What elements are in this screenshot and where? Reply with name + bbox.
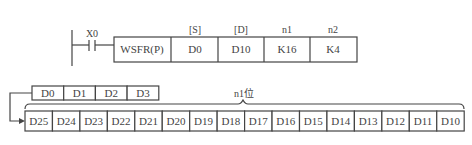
destination-register-cell-label: D22 — [112, 115, 131, 127]
operand-header-n2: n2 — [328, 24, 338, 35]
destination-register-cell-label: D10 — [441, 115, 460, 127]
destination-register-cell-label: D17 — [249, 115, 268, 127]
destination-register-cell-label: D19 — [194, 115, 213, 127]
destination-register-cell-label: D24 — [57, 115, 76, 127]
operand-header-d: [D] — [234, 24, 248, 35]
source-register-cell-label: D3 — [136, 87, 150, 99]
destination-register-cell-label: D20 — [166, 115, 185, 127]
destination-register-cell-label: D11 — [414, 115, 433, 127]
destination-register-row: D25D24D23D22D21D20D19D18D17D16D15D14D13D… — [25, 111, 464, 131]
source-register-row: D0D1D2D3 — [32, 86, 159, 100]
operand-value-s: D0 — [188, 43, 202, 55]
wsfr-diagram: X0 WSFR(P) [S] [D] n1 n2 D0 D10 K16 K4 D… — [0, 0, 472, 145]
operand-value-n2: K4 — [326, 43, 340, 55]
destination-register-cell-label: D21 — [139, 115, 158, 127]
destination-register-cell-label: D25 — [29, 115, 48, 127]
n1-brace — [25, 100, 464, 109]
brace-label: n1位 — [234, 87, 254, 99]
operand-value-n1: K16 — [278, 43, 297, 55]
source-register-cell-label: D1 — [73, 87, 86, 99]
operand-header-n1: n1 — [282, 24, 292, 35]
destination-register-cell-label: D13 — [359, 115, 378, 127]
instruction-name: WSFR(P) — [120, 43, 164, 56]
destination-register-cell-label: D16 — [276, 115, 295, 127]
destination-register-cell-label: D14 — [331, 115, 350, 127]
destination-register-cell-label: D12 — [386, 115, 405, 127]
destination-register-cell-label: D18 — [221, 115, 240, 127]
operand-header-s: [S] — [189, 24, 201, 35]
destination-register-cell-label: D15 — [304, 115, 323, 127]
destination-register-cell-label: D23 — [84, 115, 103, 127]
shift-arrow-head — [19, 118, 25, 124]
operand-value-d: D10 — [232, 43, 251, 55]
source-register-cell-label: D2 — [105, 87, 118, 99]
contact-label: X0 — [86, 28, 98, 39]
source-register-cell-label: D0 — [41, 87, 55, 99]
